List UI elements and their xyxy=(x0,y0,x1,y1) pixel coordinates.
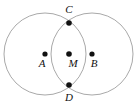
figure-canvas: A M B C D xyxy=(0,0,138,107)
point-c-label: C xyxy=(65,3,73,15)
point-a-dot xyxy=(42,51,47,56)
point-b-label: B xyxy=(91,57,98,69)
geometry-figure: A M B C D xyxy=(0,0,138,107)
point-d-dot xyxy=(66,82,72,88)
point-b-dot xyxy=(89,51,94,56)
point-a-label: A xyxy=(38,57,46,69)
point-c-dot xyxy=(66,20,72,26)
point-m-label: M xyxy=(67,57,78,69)
point-d-label: D xyxy=(64,91,73,103)
point-m-dot xyxy=(66,51,72,57)
